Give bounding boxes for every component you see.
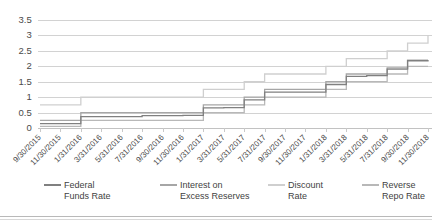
series-line xyxy=(40,35,428,104)
legend-item[interactable]: Reverse Repo Rate xyxy=(362,180,425,202)
y-tick-label: 3 xyxy=(27,31,32,41)
legend-swatch xyxy=(362,184,379,186)
legend-label: Discount Rate xyxy=(288,180,323,202)
legend-swatch xyxy=(160,184,177,186)
series-line xyxy=(40,60,428,124)
y-tick-label: 1 xyxy=(27,92,32,102)
footer-divider xyxy=(0,216,432,217)
y-tick-label: 2.5 xyxy=(18,46,32,56)
legend-label: Interest on Excess Reserves xyxy=(180,180,250,202)
legend-swatch xyxy=(44,184,61,186)
x-axis: 9/30/201511/30/20151/31/20163/31/20165/3… xyxy=(38,128,432,178)
legend-label: Reverse Repo Rate xyxy=(382,180,425,202)
legend-item[interactable]: Interest on Excess Reserves xyxy=(160,180,250,202)
chart-legend: Federal Funds RateInterest on Excess Res… xyxy=(0,180,432,214)
footer-divider-secondary xyxy=(0,219,432,220)
legend-swatch xyxy=(268,184,285,186)
legend-item[interactable]: Federal Funds Rate xyxy=(44,180,111,202)
y-tick-label: 0.5 xyxy=(18,108,32,118)
legend-label: Federal Funds Rate xyxy=(64,180,111,202)
legend-item[interactable]: Discount Rate xyxy=(268,180,323,202)
y-tick-label: 2 xyxy=(27,62,32,72)
y-tick-label: 3.5 xyxy=(18,15,32,25)
series-line xyxy=(40,60,428,120)
plot-area: 00.511.522.533.5 9/30/201511/30/20151/31… xyxy=(0,0,432,176)
y-tick-label: 0 xyxy=(27,123,32,133)
interest-rate-line-chart: 00.511.522.533.5 9/30/201511/30/20151/31… xyxy=(0,0,432,223)
y-tick-label: 1.5 xyxy=(18,77,32,87)
